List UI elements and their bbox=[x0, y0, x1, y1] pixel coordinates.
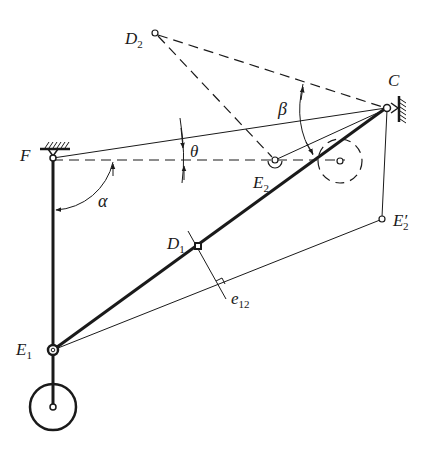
joint-e2 bbox=[268, 157, 282, 168]
line-e1-e2prime bbox=[53, 220, 380, 350]
ground-support-f bbox=[40, 142, 70, 161]
joint-d1 bbox=[195, 243, 201, 249]
joint-d2 bbox=[152, 30, 158, 36]
label-e1: E1 bbox=[15, 340, 32, 361]
label-beta: β bbox=[277, 99, 287, 119]
label-e2-prime: E′2 bbox=[392, 211, 409, 232]
circle-center-point bbox=[337, 158, 343, 164]
label-e12: e12 bbox=[231, 289, 250, 310]
coupler-link-e1-c bbox=[53, 108, 386, 350]
label-e2: E2 bbox=[252, 173, 269, 194]
label-alpha: α bbox=[98, 191, 108, 211]
joint-e1 bbox=[48, 345, 58, 355]
angle-theta-arc bbox=[180, 118, 184, 183]
dashed-line-d2-e2 bbox=[158, 36, 272, 157]
label-d2: D2 bbox=[124, 29, 143, 50]
label-theta: θ bbox=[190, 142, 198, 161]
label-c: C bbox=[388, 71, 400, 90]
label-d1: D1 bbox=[166, 234, 185, 255]
label-f: F bbox=[19, 146, 31, 165]
line-c-e2prime bbox=[382, 110, 387, 217]
linkage-diagram: D2 C F β θ α E2 E′2 D1 e12 E1 bbox=[0, 0, 427, 452]
line-f-c bbox=[53, 108, 386, 158]
joint-e2-prime bbox=[379, 216, 385, 222]
